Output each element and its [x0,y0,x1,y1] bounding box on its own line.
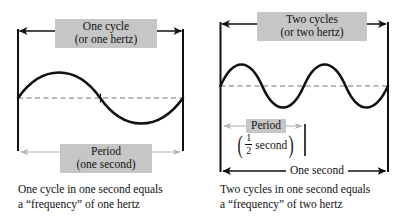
fraction-numerator: 1 [245,133,252,143]
caption-one-hertz: One cycle in one second equals a “freque… [18,182,163,211]
frequency-hertz-figure: One cycle (or one hertz) Period (one sec… [0,0,412,218]
half-second-expression: ( 1 2 second ) [236,133,296,156]
one-cycle-label-line1: One cycle [83,20,129,32]
one-cycle-label-line2: (or one hertz) [62,33,150,46]
one-second-axis-label: One second [286,164,348,176]
period-label-line2: (one second) [67,158,145,171]
fraction-unit-label: second [255,139,287,151]
sine-wave-two-cycles [221,65,389,108]
close-paren: ) [289,135,294,155]
period-label-half-second: Period [246,119,286,133]
one-cycle-label: One cycle (or one hertz) [55,19,157,48]
period-label-line1: Period [91,145,121,157]
panel-two-hertz: Two cycles (or two hertz) Period ( 1 2 s… [206,0,412,218]
two-cycles-label-line2: (or two hertz) [264,26,360,39]
one-half-fraction: 1 2 [245,133,252,156]
fraction-denominator: 2 [245,146,252,156]
panel-one-hertz: One cycle (or one hertz) Period (one sec… [0,0,206,218]
caption-one-hertz-line2: a “frequency” of one hertz [18,197,163,212]
two-cycles-label-line1: Two cycles [286,13,338,25]
caption-two-hertz: Two cycles in one second equals a “frequ… [220,182,370,211]
two-cycles-label: Two cycles (or two hertz) [257,12,367,41]
caption-two-hertz-line1: Two cycles in one second equals [220,182,370,197]
open-paren: ( [238,135,243,155]
caption-two-hertz-line2: a “frequency” of two hertz [220,197,370,212]
caption-one-hertz-line1: One cycle in one second equals [18,182,163,197]
period-label-text: Period [251,119,281,131]
period-one-second-label: Period (one second) [60,144,152,173]
